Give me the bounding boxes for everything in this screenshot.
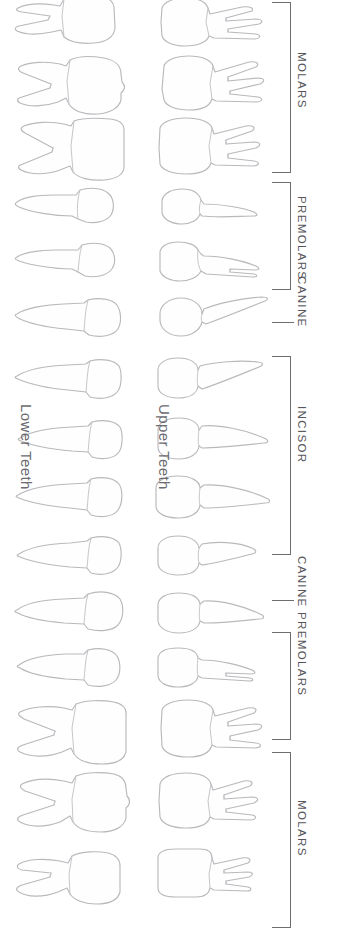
tooth-upper-premolar-b1: [152, 590, 272, 636]
tooth-lower-molar-b2: [14, 772, 136, 836]
tooth-lower-premolar-b2: [14, 646, 130, 690]
tooth-lower-premolar-b1: [14, 590, 132, 634]
tooth-lower-molar-b3: [14, 848, 132, 908]
tooth-upper-molar-b3: [152, 848, 268, 904]
tooth-upper-first-premolar: [152, 240, 268, 284]
tooth-upper-incisor-1: [152, 356, 272, 402]
tooth-upper-second-molar: [152, 56, 272, 118]
tooth-upper-molar-b1: [152, 700, 274, 766]
group-label-premolars-upper: PREMOLARS: [296, 196, 308, 280]
bracket-premolars-upper: [272, 182, 291, 290]
group-label-canine-upper: CANINE: [296, 276, 308, 328]
tick-canine-upper: [272, 322, 294, 323]
tooth-upper-third-molar: [152, 0, 270, 50]
lower-teeth-label: Lower Teeth: [19, 404, 34, 490]
tooth-upper-molar-b2: [152, 772, 272, 834]
tooth-upper-first-molar: [152, 118, 272, 182]
tooth-lower-first-molar: [14, 118, 136, 182]
tooth-lower-second-molar: [14, 56, 134, 118]
tooth-lower-first-premolar: [14, 240, 126, 282]
tooth-lower-canine-a: [14, 296, 134, 342]
dental-chart: Lower Teeth Upper Teeth MOLARS PREMOLARS…: [0, 0, 338, 933]
bracket-incisor: [272, 356, 291, 555]
tick-canine-lower: [272, 600, 294, 601]
bracket-premolars-lower: [272, 632, 291, 740]
tooth-lower-molar-b1: [14, 700, 136, 766]
group-label-incisor: INCISOR: [296, 406, 308, 463]
group-label-molars-upper: MOLARS: [296, 52, 308, 109]
bracket-molars-upper: [272, 2, 291, 173]
group-label-molars-lower: MOLARS: [296, 800, 308, 857]
tooth-lower-second-premolar: [14, 186, 126, 228]
group-label-premolars-lower: PREMOLARS: [296, 612, 308, 696]
group-label-canine-lower: CANINE: [296, 556, 308, 608]
bracket-molars-lower: [272, 752, 291, 928]
tooth-lower-incisor-1: [14, 358, 132, 402]
upper-teeth-label: Upper Teeth: [157, 404, 172, 490]
tooth-upper-premolar-b2: [152, 646, 268, 690]
tooth-upper-canine-a: [152, 294, 276, 342]
tooth-lower-third-molar: [14, 0, 129, 54]
tooth-upper-canine-b: [152, 534, 270, 578]
tooth-upper-second-premolar: [152, 186, 264, 228]
tooth-lower-canine-b: [14, 534, 132, 578]
